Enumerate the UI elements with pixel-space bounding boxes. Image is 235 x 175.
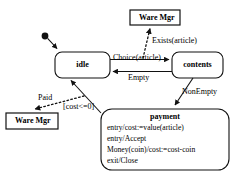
transition-label-empty: Empty — [128, 74, 149, 82]
payment-action-entry-accept: entry/Accept — [107, 135, 146, 143]
actor-label-ware-mgr-bottom: Ware Mgr — [15, 117, 51, 125]
transition-label-guard: [cost<=0] — [63, 103, 94, 111]
payment-action-entry-cost: entry/cost:=value(article) — [107, 124, 184, 132]
actor-label-ware-mgr-top: Ware Mgr — [139, 14, 175, 22]
payment-action-exit-close: exit/Close — [107, 157, 138, 165]
payment-action-money-coin: Money(coin)/cost:=cost-coin — [107, 146, 195, 154]
transition-label-nonempty: NonEmpty — [182, 88, 217, 96]
transition-label-choice: Choice(article) — [113, 54, 161, 62]
message-label-paid: Paid — [38, 94, 52, 102]
state-label-idle: idle — [55, 61, 110, 69]
state-label-contents: contents — [172, 61, 223, 69]
statechart-diagram: Ware Mgr Ware Mgr idle contents payment … — [0, 0, 235, 175]
initial-transition-arrow — [48, 38, 57, 48]
message-label-exists: Exists(article) — [152, 37, 197, 45]
initial-state-dot — [42, 33, 49, 40]
state-label-payment: payment — [101, 113, 229, 121]
